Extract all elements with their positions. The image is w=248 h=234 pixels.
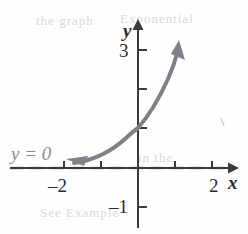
curve-arrowhead-right [171,40,185,60]
x-tick-label-2: 2 [209,176,219,195]
scan-speck [221,118,224,126]
x-tick-label-neg2: –2 [48,176,67,195]
y-axis-label: y [123,21,131,40]
asymptote-label-text: y = 0 [11,143,51,164]
exponential-curve [74,50,178,163]
y-tick-label-3: 3 [119,41,129,60]
y-tick-label-neg1: –1 [109,197,128,216]
x-axis-label: x [228,173,238,192]
y-axis-arrowhead [133,19,144,30]
exponential-graph-figure: the graph Exponential in the See Example [0,0,248,234]
asymptote-label: y = 0 [11,144,51,163]
